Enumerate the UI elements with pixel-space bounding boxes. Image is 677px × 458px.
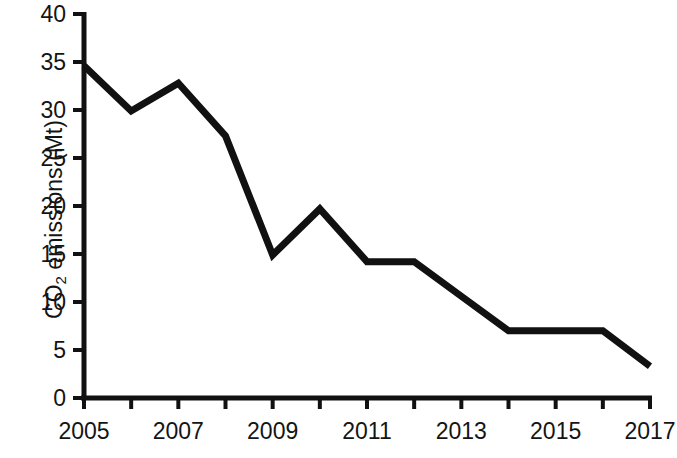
axes xyxy=(73,12,652,409)
x-axis-tick-label: 2013 xyxy=(436,420,487,443)
chart-container: 0510152025303540200520072009201120132015… xyxy=(0,0,677,458)
y-axis-tick-label: 40 xyxy=(10,3,66,26)
x-axis-tick-label: 2015 xyxy=(530,420,581,443)
line-chart-plot xyxy=(0,0,677,458)
data-series xyxy=(84,66,650,366)
y-axis-title-suffix: emissions (Mt) xyxy=(41,120,67,276)
x-axis-tick-label: 2009 xyxy=(247,420,298,443)
y-axis-title-subscript: 2 xyxy=(52,276,69,284)
y-axis-tick-label: 0 xyxy=(10,387,66,410)
y-axis-title-prefix: CO xyxy=(41,284,67,319)
x-axis-tick-label: 2007 xyxy=(153,420,204,443)
y-axis-title: CO2 emissions (Mt) xyxy=(41,70,68,370)
data-line xyxy=(84,66,650,366)
x-axis-tick-label: 2011 xyxy=(342,420,391,443)
x-axis-tick-label: 2005 xyxy=(58,420,109,443)
x-axis-tick-label: 2017 xyxy=(624,420,675,443)
